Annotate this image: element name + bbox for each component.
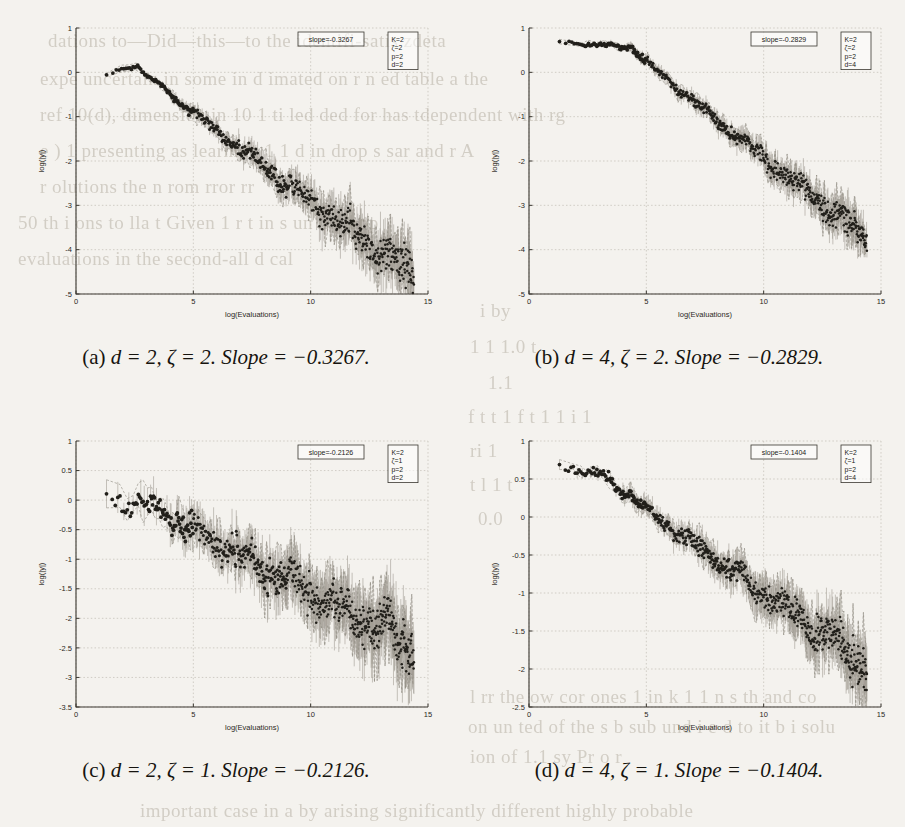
y-axis-label: log(|y|) [37,149,46,172]
y-tick-label: -4 [65,245,72,254]
slope-value: slope=-0.1404 [762,449,807,457]
x-tick-label: 10 [306,710,314,719]
x-axis-label: log(Evaluations) [678,310,732,319]
plot-area-d: 10.50-0.5-1-1.5-2-2.5051015log(Evaluatio… [483,431,893,741]
figure-caption-c: (c) d = 2, ζ = 1. Slope = −0.2126. [0,758,452,783]
y-tick-label: -2 [65,157,72,166]
y-tick-label: -5 [65,290,72,299]
error-bars [560,460,867,707]
slope-value: slope=-0.2126 [309,449,354,457]
y-tick-label: 1 [68,24,72,33]
x-tick-label: 0 [527,710,531,719]
x-tick-label: 10 [759,710,767,719]
legend: K=2ζ=2p=2d=2 [388,32,418,70]
figure-d: 10.50-0.5-1-1.5-2-2.5051015log(Evaluatio… [453,413,905,826]
slope-annotation: slope=-0.1404 [751,445,817,459]
slope-annotation: slope=-0.2126 [298,445,364,459]
y-tick-label: 1 [521,437,525,446]
y-tick-label: -2 [518,157,525,166]
y-tick-label: -3 [65,673,72,682]
y-tick-label: 0 [521,513,525,522]
y-tick-label: 0 [521,68,525,77]
plot-area-a: 10-1-2-3-4-5051015log(Evaluations)log(|y… [30,18,440,328]
y-tick-label: -0.5 [59,525,72,534]
legend-entry: p=2 [845,53,857,61]
x-tick-label: 10 [306,297,314,306]
y-tick-label: 1 [68,437,72,446]
y-tick-label: -3.5 [59,703,72,712]
y-tick-label: -1 [518,589,525,598]
y-tick-label: -1 [65,555,72,564]
x-tick-label: 0 [527,297,531,306]
data-points [558,39,869,252]
error-bars [107,476,414,705]
plot-area-c: 10.50-0.5-1-1.5-2-2.5-3-3.5051015log(Eva… [30,431,440,741]
y-tick-label: -1 [518,112,525,121]
data-points [105,63,416,294]
y-tick-label: -2.5 [512,703,525,712]
x-tick-label: 0 [74,297,78,306]
scatter-plot-b: 10-1-2-3-4-5051015log(Evaluations)log(|y… [483,18,893,328]
legend-entry: ζ=1 [392,457,403,465]
x-tick-label: 15 [877,710,885,719]
figure-a: 10-1-2-3-4-5051015log(Evaluations)log(|y… [0,0,452,413]
y-tick-label: -3 [65,201,72,210]
x-tick-label: 0 [74,710,78,719]
caption-body-a: d = 2, ζ = 2. [111,345,216,369]
x-tick-label: 5 [191,710,195,719]
plot-area-b: 10-1-2-3-4-5051015log(Evaluations)log(|y… [483,18,893,328]
y-tick-label: -5 [518,290,525,299]
x-tick-label: 15 [424,297,432,306]
caption-body-c: d = 2, ζ = 1. [111,758,216,782]
x-tick-label: 10 [759,297,767,306]
y-tick-label: -3 [518,201,525,210]
y-tick-label: 0.5 [515,475,525,484]
caption-slope-d: Slope = −0.1404. [675,758,824,782]
slope-annotation: slope=-0.2829 [751,32,817,46]
legend-entry: ζ=2 [845,44,856,52]
slope-value: slope=-0.3267 [309,36,354,44]
x-tick-label: 15 [877,297,885,306]
y-tick-label: -2 [65,614,72,623]
y-axis-label: log(|y|) [490,562,499,585]
y-tick-label: -0.5 [512,551,525,560]
x-axis-label: log(Evaluations) [225,723,279,732]
figure-c: 10.50-0.5-1-1.5-2-2.5-3-3.5051015log(Eva… [0,413,452,826]
x-tick-label: 15 [424,710,432,719]
legend-entry: K=2 [845,449,858,456]
error-bars [560,39,867,258]
y-tick-label: -2 [518,665,525,674]
x-axis-label: log(Evaluations) [225,310,279,319]
legend-entry: p=2 [392,466,404,474]
caption-slope-a: Slope = −0.3267. [221,345,370,369]
legend-entry: p=2 [392,53,404,61]
y-tick-label: -1.5 [512,627,525,636]
axis-lines [529,441,881,707]
data-points [558,463,869,692]
x-tick-label: 5 [644,297,648,306]
caption-label-d: (d) [535,758,560,782]
caption-label-b: (b) [535,345,560,369]
scatter-plot-a: 10-1-2-3-4-5051015log(Evaluations)log(|y… [30,18,440,328]
y-axis-label: log(|y|) [37,562,46,585]
legend-entry: K=2 [392,36,405,43]
legend-entry: d=2 [392,61,404,68]
scatter-plot-d: 10.50-0.5-1-1.5-2-2.5051015log(Evaluatio… [483,431,893,741]
x-tick-label: 5 [644,710,648,719]
caption-body-b: d = 4, ζ = 2. [564,345,669,369]
lower-envelope-curve [560,44,866,257]
legend-entry: d=4 [845,474,857,481]
slope-value: slope=-0.2829 [762,36,807,44]
legend: K=2ζ=1p=2d=4 [841,445,871,483]
x-tick-label: 5 [191,297,195,306]
scatter-plot-c: 10.50-0.5-1-1.5-2-2.5-3-3.5051015log(Eva… [30,431,440,741]
legend-entry: d=4 [845,61,857,68]
figure-caption-d: (d) d = 4, ζ = 1. Slope = −0.1404. [453,758,905,783]
y-tick-label: 1 [521,24,525,33]
caption-slope-b: Slope = −0.2829. [675,345,824,369]
legend: K=2ζ=1p=2d=2 [388,445,418,483]
error-bars [107,63,414,294]
figure-b: 10-1-2-3-4-5051015log(Evaluations)log(|y… [453,0,905,413]
legend-entry: d=2 [392,474,404,481]
figure-caption-b: (b) d = 4, ζ = 2. Slope = −0.2829. [453,345,905,370]
